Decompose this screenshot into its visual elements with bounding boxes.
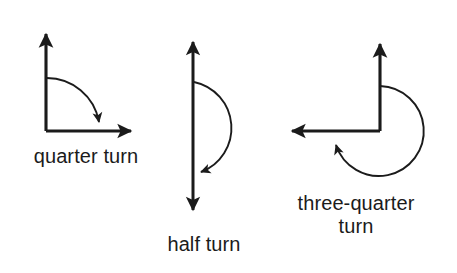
half-turn-arc xyxy=(194,82,231,172)
quarter-turn-label: quarter turn xyxy=(6,145,166,168)
three-quarter-turn-figure xyxy=(292,44,424,176)
half-turn-label: half turn xyxy=(128,233,280,256)
quarter-turn-figure xyxy=(46,34,131,131)
quarter-turn-arc xyxy=(46,78,99,122)
three-quarter-turn-label: three-quarter turn xyxy=(272,192,440,238)
turns-diagram: quarter turn half turn three-quarter tur… xyxy=(0,0,457,273)
half-turn-figure xyxy=(193,42,231,210)
